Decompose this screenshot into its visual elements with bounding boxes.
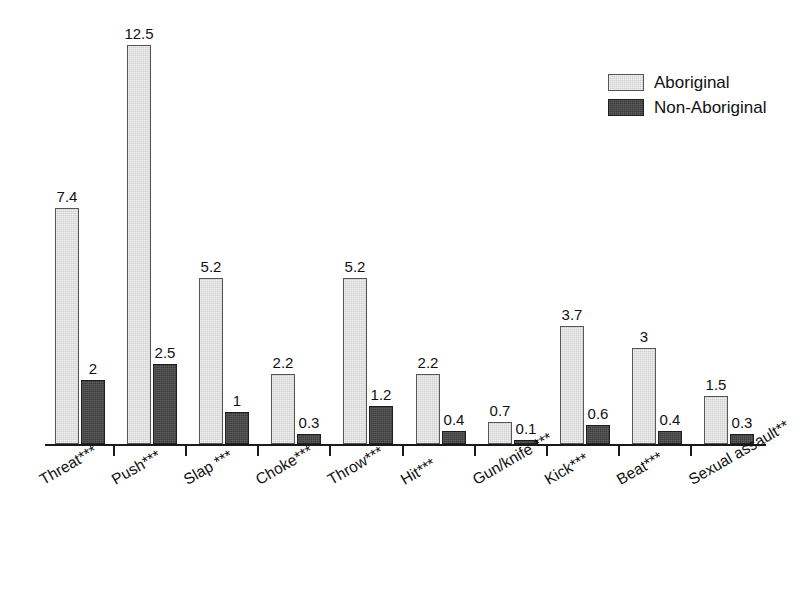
- bar-light-2: [199, 278, 223, 444]
- bar-light-1: [127, 45, 151, 444]
- legend-swatch-aboriginal: [608, 74, 644, 91]
- x-axis-tick: [618, 446, 620, 456]
- bar-value-label: 0.3: [287, 415, 331, 430]
- bar-value-label: 2.5: [143, 345, 187, 360]
- bar-value-label: 2: [71, 361, 115, 376]
- category-label: Hit***: [398, 455, 438, 487]
- bar-value-label: 7.4: [45, 189, 89, 204]
- x-axis-line: [45, 444, 766, 446]
- x-axis-tick: [402, 446, 404, 456]
- chart-legend: Aboriginal Non-Aboriginal: [608, 70, 766, 120]
- category-label: Push***: [109, 447, 163, 487]
- bar-light-4: [343, 278, 367, 444]
- bar-value-label: 0.7: [478, 403, 522, 418]
- bar-value-label: 1.2: [359, 387, 403, 402]
- category-label: Slap ***: [181, 447, 235, 487]
- legend-item-aboriginal: Aboriginal: [608, 70, 766, 95]
- legend-label-aboriginal: Aboriginal: [654, 73, 730, 93]
- category-label: Threat***: [37, 443, 99, 488]
- bar-value-label: 1: [215, 393, 259, 408]
- bar-value-label: 5.2: [189, 259, 233, 274]
- bar-chart-figure: 7.4212.52.55.212.20.35.21.22.20.40.70.13…: [0, 0, 808, 597]
- x-axis-tick: [185, 446, 187, 456]
- bar-value-label: 5.2: [333, 259, 377, 274]
- x-axis-tick: [690, 446, 692, 456]
- x-axis-tick: [113, 446, 115, 456]
- bar-light-5: [416, 374, 440, 444]
- bar-value-label: 1.5: [694, 377, 738, 392]
- legend-item-non-aboriginal: Non-Aboriginal: [608, 95, 766, 120]
- bar-value-label: 2.2: [406, 355, 450, 370]
- bar-value-label: 0.4: [432, 412, 476, 427]
- category-label: Choke***: [253, 443, 315, 488]
- bar-light-0: [55, 208, 79, 444]
- legend-label-non-aboriginal: Non-Aboriginal: [654, 98, 766, 118]
- bar-value-label: 0.6: [576, 406, 620, 421]
- bar-dark-4: [369, 406, 393, 444]
- category-label: Throw***: [325, 443, 386, 487]
- legend-swatch-non-aboriginal: [608, 99, 644, 116]
- bar-value-label: 0.3: [720, 415, 764, 430]
- bar-light-7: [560, 326, 584, 444]
- bar-value-label: 3: [622, 329, 666, 344]
- bar-dark-5: [442, 431, 466, 444]
- bar-dark-3: [297, 434, 321, 444]
- category-label: Gun/knife ***: [470, 430, 555, 488]
- bar-value-label: 3.7: [550, 307, 594, 322]
- bar-light-3: [271, 374, 295, 444]
- x-axis-tick: [329, 446, 331, 456]
- bar-dark-8: [658, 431, 682, 444]
- bar-value-label: 0.4: [648, 412, 692, 427]
- bar-light-8: [632, 348, 656, 444]
- x-axis-tick: [257, 446, 259, 456]
- x-axis-tick: [474, 446, 476, 456]
- bar-dark-7: [586, 425, 610, 444]
- category-label: Beat***: [614, 449, 665, 487]
- bar-dark-0: [81, 380, 105, 444]
- bar-value-label: 2.2: [261, 355, 305, 370]
- category-label: Kick***: [542, 450, 591, 487]
- bar-dark-1: [153, 364, 177, 444]
- bar-dark-2: [225, 412, 249, 444]
- bar-value-label: 12.5: [117, 26, 161, 41]
